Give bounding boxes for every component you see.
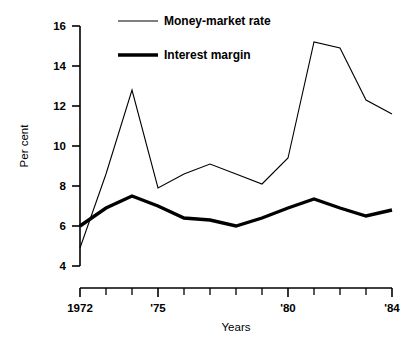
y-axis-title: Per cent xyxy=(18,124,30,168)
y-tick-label-4: 4 xyxy=(60,260,67,272)
x-tick-label-1980: '80 xyxy=(280,302,296,314)
y-tick-label-16: 16 xyxy=(53,20,66,32)
y-tick-label-12: 12 xyxy=(53,100,66,112)
x-axis-title: Years xyxy=(222,321,251,333)
x-tick-label-1975: '75 xyxy=(150,302,166,314)
y-tick-label-14: 14 xyxy=(53,60,66,72)
y-tick-label-8: 8 xyxy=(60,180,67,192)
line-chart: 16 14 12 10 8 6 4 Per cent xyxy=(0,0,416,337)
y-tick-label-6: 6 xyxy=(60,220,66,232)
legend-label-money-market-rate: Money-market rate xyxy=(164,14,271,28)
x-tick-label-1972: 1972 xyxy=(67,302,93,314)
y-tick-label-10: 10 xyxy=(53,140,66,152)
chart-container: 16 14 12 10 8 6 4 Per cent xyxy=(0,0,416,337)
x-tick-label-1984: '84 xyxy=(384,302,400,314)
legend-label-interest-margin: Interest margin xyxy=(164,48,251,62)
